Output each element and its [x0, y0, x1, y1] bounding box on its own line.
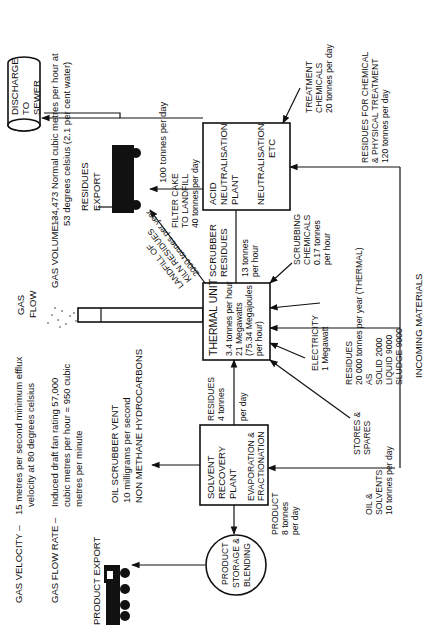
svg-text:SOLVENTS: SOLVENTS	[374, 470, 384, 515]
discharge-to-sewer-tank: DISCHARGE TO SEWER	[8, 57, 42, 131]
svg-text:PLANT: PLANT	[229, 174, 240, 205]
svg-text:NEUTRALISATION: NEUTRALISATION	[218, 123, 229, 205]
svg-text:21 Megawatts: 21 Megawatts	[234, 302, 244, 356]
svg-text:& PHYSICAL TREATMENT: & PHYSICAL TREATMENT	[370, 58, 380, 163]
svg-text:BLENDING: BLENDING	[242, 543, 252, 587]
svg-text:SLUDGE 9000: SLUDGE 9000	[394, 328, 404, 385]
svg-text:40 tonnes per day: 40 tonnes per day	[190, 158, 200, 228]
svg-text:SEWER: SEWER	[31, 80, 42, 115]
svg-text:NEUTRALISATION: NEUTRALISATION	[255, 123, 266, 205]
svg-text:cubic metres per hour = 950 cu: cubic metres per hour = 950 cubic	[61, 363, 72, 507]
svg-text:OIL &: OIL &	[364, 493, 374, 515]
svg-text:per day: per day	[238, 392, 248, 421]
filter-cake-label: FILTER CAKE TO LANDFILL 40 tonnes per da…	[170, 158, 200, 228]
gas-velocity-note: GAS VELOCITY – 15 metres per second mini…	[13, 357, 84, 603]
scrubber-residues-label: SCRUBBER RESIDUES 13 tonnes per hour	[207, 224, 260, 277]
thermal-unit-box: THERMAL UNIT 3.4 tonnes per hour 21 Mega…	[203, 278, 270, 360]
svg-text:GAS FLOW RATE –: GAS FLOW RATE –	[49, 517, 60, 603]
svg-text:53 degrees celsius (2.1 per ce: 53 degrees celsius (2.1 per cent water)	[61, 62, 72, 226]
svg-text:RESIDUES FOR CHEMICAL: RESIDUES FOR CHEMICAL	[360, 52, 370, 163]
svg-text:SCRUBBING: SCRUBBING	[292, 214, 302, 265]
svg-text:PRODUCT: PRODUCT	[220, 542, 230, 585]
svg-text:FLOW: FLOW	[27, 291, 38, 318]
svg-text:ELECTRICITY: ELECTRICITY	[310, 315, 320, 371]
svg-text:SOLVENT: SOLVENT	[205, 455, 216, 499]
svg-text:STORES &: STORES &	[352, 411, 362, 455]
residues-4t-label: RESIDUES 4 tonnes per day	[206, 377, 248, 421]
svg-text:per hour: per hour	[250, 245, 260, 277]
svg-text:GAS VOLUME –: GAS VOLUME –	[49, 217, 60, 288]
svg-text:15 metres per second minimum e: 15 metres per second minimum efflux	[13, 357, 24, 515]
svg-text:8 tonnes: 8 tonnes	[280, 502, 290, 535]
incoming-materials-label: INCOMING MATERIALS	[413, 274, 424, 378]
electricity-label: ELECTRICITY 1 Megawatt	[310, 315, 330, 371]
stores-spares-label: STORES & SPARES	[352, 411, 372, 455]
svg-text:TREATMENT: TREATMENT	[304, 60, 314, 113]
svg-text:SCRUBBER: SCRUBBER	[207, 224, 218, 277]
svg-text:FRACTIONATION: FRACTIONATION	[256, 431, 266, 501]
svg-text:20 000 tonnes per year (THERMA: 20 000 tonnes per year (THERMAL)	[354, 247, 364, 385]
svg-text:20 tonnes per day: 20 tonnes per day	[324, 43, 334, 113]
process-flow-diagram: GAS VELOCITY – 15 metres per second mini…	[0, 0, 434, 633]
svg-text:metres per minute: metres per minute	[73, 430, 84, 507]
residues-chemical-label: RESIDUES FOR CHEMICAL & PHYSICAL TREATME…	[360, 52, 390, 163]
svg-text:AS: AS	[364, 373, 374, 385]
gas-flow-label: GAS FLOW	[15, 291, 38, 318]
svg-text:13 tonnes: 13 tonnes	[240, 239, 250, 277]
svg-text:EVAPORATION &: EVAPORATION &	[246, 432, 256, 501]
svg-text:1 Megawatt: 1 Megawatt	[320, 326, 330, 371]
product-export-truck-icon	[104, 565, 130, 625]
svg-text:FILTER CAKE: FILTER CAKE	[170, 173, 180, 228]
oil-scrubber-vent-label: OIL SCRUBBER VENT 10 milligrams per seco…	[109, 349, 144, 503]
svg-text:RESIDUES: RESIDUES	[344, 341, 354, 385]
svg-text:CHEMICALS: CHEMICALS	[302, 215, 312, 265]
discharge-flow-label: 100 tonnes per day	[157, 101, 168, 183]
svg-text:RESIDUES: RESIDUES	[79, 162, 90, 211]
svg-text:120 tonnes per day: 120 tonnes per day	[380, 89, 390, 163]
svg-text:ETC: ETC	[266, 139, 277, 158]
electricity-arrow	[270, 343, 305, 358]
svg-text:RESIDUES: RESIDUES	[218, 228, 229, 277]
svg-text:SOLID 2000: SOLID 2000	[374, 337, 384, 385]
svg-text:10 tonnes per day: 10 tonnes per day	[384, 445, 394, 515]
product-storage-blending-tank: PRODUCT STORAGE & BLENDING	[206, 535, 266, 595]
oil-solvents-label: OIL & SOLVENTS 10 tonnes per day	[364, 445, 394, 515]
residues-export-label: RESIDUES EXPORT	[79, 162, 102, 211]
residues-export-vehicle-icon	[98, 145, 141, 213]
treatment-chemicals-arrow	[283, 88, 300, 123]
svg-text:GAS VELOCITY –: GAS VELOCITY –	[13, 525, 24, 603]
scrubbing-chemicals-label: SCRUBBING CHEMICALS 0.17 tonnes per hour	[292, 214, 332, 265]
svg-text:per hour: per hour	[322, 233, 332, 265]
svg-text:OIL SCRUBBER VENT: OIL SCRUBBER VENT	[109, 404, 120, 503]
svg-text:SPARES: SPARES	[362, 421, 372, 455]
svg-text:4 tonnes: 4 tonnes	[216, 388, 226, 421]
svg-text:per hour): per hour)	[254, 321, 264, 356]
svg-text:RECOVERY: RECOVERY	[216, 445, 227, 499]
product-export-label: PRODUCT EXPORT	[91, 536, 102, 625]
svg-text:3.4 tonnes per hour: 3.4 tonnes per hour	[224, 281, 234, 356]
svg-text:PRODUCT: PRODUCT	[270, 492, 280, 535]
svg-text:LIQUID 9000: LIQUID 9000	[384, 335, 394, 385]
residues-main-label: RESIDUES 20 000 tonnes per year (THERMAL…	[344, 247, 404, 385]
svg-text:134,473 Normal cubic metres pe: 134,473 Normal cubic metres per hour at	[49, 53, 60, 226]
svg-text:(75.34 Megajoules: (75.34 Megajoules	[244, 285, 254, 356]
svg-text:NON METHANE HYDROCARBONS: NON METHANE HYDROCARBONS	[133, 349, 144, 503]
svg-text:ACID: ACID	[207, 182, 218, 205]
treatment-chemicals-label: TREATMENT CHEMICALS 20 tonnes per day	[304, 43, 334, 113]
gas-volume-note: GAS VOLUME – 134,473 Normal cubic metres…	[49, 53, 72, 288]
svg-text:velocity at 80 degrees celsius: velocity at 80 degrees celsius	[25, 383, 36, 507]
svg-text:STORAGE &: STORAGE &	[231, 538, 241, 588]
svg-text:0.17 tonnes: 0.17 tonnes	[312, 220, 322, 265]
product-flow-label: PRODUCT 8 tonnes per day	[270, 492, 300, 535]
svg-text:RESIDUES: RESIDUES	[206, 377, 216, 421]
svg-text:Induced draft fan rating 57,00: Induced draft fan rating 57,000	[49, 378, 60, 507]
svg-text:TO: TO	[20, 102, 31, 115]
gas-plume-icon	[47, 307, 77, 328]
svg-text:per day: per day	[290, 506, 300, 535]
svg-text:THERMAL UNIT: THERMAL UNIT	[207, 278, 219, 356]
svg-text:CHEMICALS: CHEMICALS	[314, 63, 324, 113]
svg-text:TO LANDFILL: TO LANDFILL	[180, 173, 190, 228]
feed-arrow-1	[270, 303, 320, 308]
svg-text:DISCHARGE: DISCHARGE	[9, 59, 20, 115]
svg-text:10 milligrams per second: 10 milligrams per second	[121, 397, 132, 503]
